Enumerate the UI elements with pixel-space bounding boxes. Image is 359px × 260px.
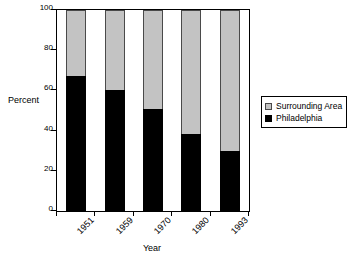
bar-segment-surrounding-area (143, 10, 163, 108)
bar-group (220, 10, 240, 211)
x-tick-mark (210, 211, 211, 216)
x-tick-mark (56, 211, 57, 216)
legend-label: Philadelphia (276, 113, 322, 123)
x-tick-label: 1951 (75, 215, 97, 237)
x-tick-label: 1993 (229, 215, 251, 237)
bar-segment-surrounding-area (220, 10, 240, 151)
plot-inner (57, 10, 249, 211)
x-tick-mark (171, 211, 172, 216)
bar-segment-surrounding-area (105, 10, 125, 90)
y-tick-label: 40 (44, 124, 53, 134)
x-tick-mark (94, 211, 95, 216)
x-tick-label: 1980 (190, 215, 212, 237)
y-tick-label: 0 (49, 204, 53, 214)
y-tick-label: 60 (44, 83, 53, 93)
bar-segment-surrounding-area (181, 10, 201, 134)
legend-swatch-icon (265, 103, 272, 110)
bar-segment-philadelphia (143, 109, 163, 212)
x-tick-label: 1959 (113, 215, 135, 237)
y-axis-title: Percent (8, 95, 39, 106)
y-tick-label: 80 (44, 43, 53, 53)
y-tick-label: 100 (40, 3, 53, 13)
bar-group (143, 10, 163, 211)
chart-legend: Surrounding Area Philadelphia (261, 96, 347, 128)
bar-segment-philadelphia (181, 134, 201, 211)
bar-segment-philadelphia (66, 76, 86, 211)
bar-group (66, 10, 86, 211)
bar-segment-philadelphia (220, 151, 240, 211)
legend-item-surrounding-area: Surrounding Area (265, 100, 342, 112)
x-tick-mark (248, 211, 249, 216)
bar-group (181, 10, 201, 211)
plot-area (56, 9, 250, 212)
x-tick-label: 1970 (152, 215, 174, 237)
chart-figure: Percent 020406080100 1951195919701980199… (0, 0, 359, 260)
legend-item-philadelphia: Philadelphia (265, 112, 342, 124)
x-tick-mark (133, 211, 134, 216)
y-tick-label: 20 (44, 164, 53, 174)
legend-label: Surrounding Area (276, 101, 342, 111)
bar-segment-philadelphia (105, 90, 125, 211)
bar-segment-surrounding-area (66, 10, 86, 76)
bar-group (105, 10, 125, 211)
x-axis-title: Year (0, 243, 304, 254)
legend-swatch-icon (265, 115, 272, 122)
